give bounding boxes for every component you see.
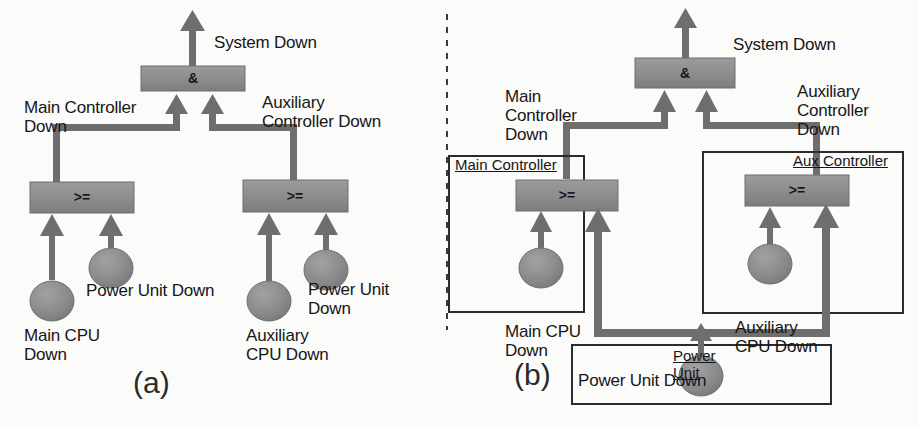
panel-a-power-unit-right-arrow <box>314 213 338 250</box>
panel-b-power-to-main-connector <box>585 208 704 337</box>
panel-b-top-output-arrow <box>674 8 697 58</box>
panel-b-basic-event-main-cpu <box>519 248 563 288</box>
figure-canvas: & >= >= <box>0 0 918 426</box>
panel-b-label-aux-cpu-down: Auxiliary CPU Down <box>735 318 817 356</box>
svg-text:>=: >= <box>74 189 90 205</box>
panel-b-label-aux-controller-down: Auxiliary Controller Down <box>797 82 869 139</box>
svg-text:&: & <box>680 65 690 81</box>
panel-b-label-main-controller-down: Main Controller Down <box>505 87 577 144</box>
panel-b-main-cpu-arrow <box>530 211 552 250</box>
svg-text:>=: >= <box>559 187 575 203</box>
panel-b-or-gate-aux: >= <box>745 175 849 206</box>
panel-a-label-aux-controller-down: Auxiliary Controller Down <box>262 93 381 131</box>
panel-a-or-gate-main: >= <box>30 182 134 213</box>
panel-b-label-power-unit-down: Power Unit Down <box>578 371 706 390</box>
panel-b-main-controller-container-extension <box>449 156 584 312</box>
panel-a-tag: (a) <box>133 366 170 400</box>
panel-a-label-main-cpu-down: Main CPU Down <box>24 326 100 364</box>
panel-a-power-unit-left-arrow <box>99 214 123 248</box>
panel-b-main-controller-connector <box>563 90 676 179</box>
panel-a-label-power-unit-down-left: Power Unit Down <box>86 281 214 300</box>
panel-b-main-controller-container <box>449 156 584 312</box>
panel-a-top-output-arrow <box>180 10 205 66</box>
panel-b-label-system-down: System Down <box>733 35 836 54</box>
panel-b-aux-cpu-arrow <box>759 207 781 246</box>
panel-a-main-cpu-arrow <box>40 214 64 280</box>
panel-b-main-controller-box-title: Main Controller <box>455 156 557 173</box>
panel-b-tag: (b) <box>514 358 551 392</box>
panel-a-and-gate: & <box>141 66 245 91</box>
svg-text:>=: >= <box>789 182 805 198</box>
panel-a-basic-event-aux-cpu <box>247 281 291 321</box>
svg-text:&: & <box>188 70 198 86</box>
panel-a-aux-cpu-arrow <box>257 213 281 281</box>
svg-text:>=: >= <box>287 188 303 204</box>
panel-b-and-gate: & <box>635 58 735 88</box>
panel-b-aux-controller-box-title: Aux Controller <box>793 152 888 169</box>
panel-a-label-system-down: System Down <box>214 33 317 52</box>
panel-b-or-gate-main: >= <box>516 180 618 211</box>
panel-b-label-main-cpu-down: Main CPU Down <box>505 322 581 360</box>
panel-a-basic-event-main-cpu <box>30 281 74 321</box>
panel-a-or-gate-aux: >= <box>243 180 348 212</box>
panel-a-label-power-unit-down-right: Power Unit Down <box>308 280 389 318</box>
fault-tree-svg: & >= >= <box>0 0 918 426</box>
panel-a-label-main-controller-down: Main Controller Down <box>24 98 136 136</box>
panel-b-basic-event-aux-cpu <box>748 244 792 284</box>
panel-a-label-aux-cpu-down: Auxiliary CPU Down <box>246 326 328 364</box>
